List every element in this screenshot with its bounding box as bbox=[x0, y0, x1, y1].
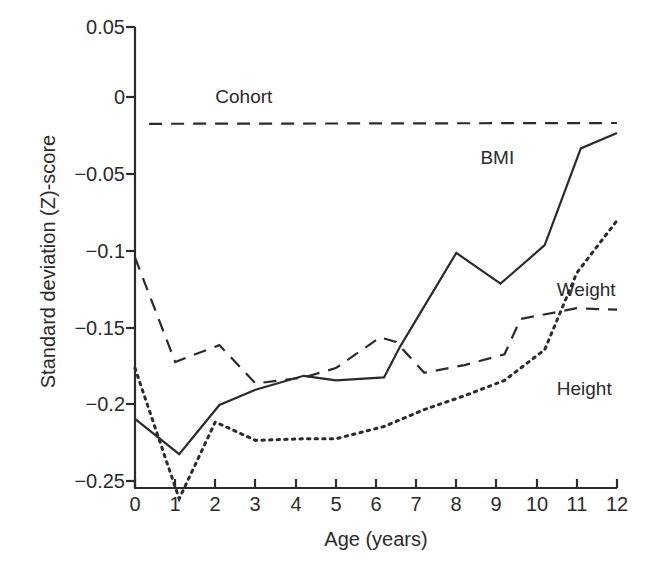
x-tick-label: 11 bbox=[557, 494, 597, 514]
x-tick-label: 2 bbox=[195, 494, 235, 514]
x-tick-label: 10 bbox=[517, 494, 557, 514]
x-tick-label: 12 bbox=[597, 494, 637, 514]
x-tick-marks bbox=[135, 479, 617, 488]
x-tick-label: 3 bbox=[235, 494, 275, 514]
plot-area bbox=[0, 0, 645, 569]
y-tick-marks bbox=[126, 27, 135, 481]
series-label-weight: Weight bbox=[557, 279, 616, 301]
series-label-bmi: BMI bbox=[480, 147, 514, 169]
series-label-cohort: Cohort bbox=[215, 86, 272, 108]
x-tick-label: 8 bbox=[436, 494, 476, 514]
series-label-height: Height bbox=[557, 378, 612, 400]
series-line-weight bbox=[135, 221, 617, 499]
x-tick-label: 5 bbox=[316, 494, 356, 514]
series-line-cohort bbox=[149, 123, 617, 124]
x-tick-label: 7 bbox=[396, 494, 436, 514]
x-tick-label: 1 bbox=[155, 494, 195, 514]
series-line-height bbox=[135, 258, 617, 384]
x-tick-label: 9 bbox=[476, 494, 516, 514]
x-axis-label: Age (years) bbox=[135, 528, 617, 551]
x-tick-label: 0 bbox=[115, 494, 155, 514]
series-line-bmi bbox=[135, 133, 617, 454]
x-tick-label: 6 bbox=[356, 494, 396, 514]
x-tick-label: 4 bbox=[276, 494, 316, 514]
chart-figure: 0.05 0 −0.05 −0.1 −0.15 −0.2 −0.25 Stand… bbox=[0, 0, 645, 569]
